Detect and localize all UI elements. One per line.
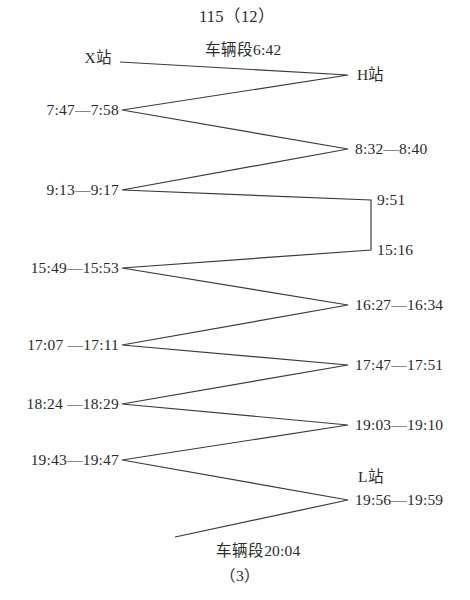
route-path	[120, 62, 371, 537]
train-schedule-diagram: 115（12） 车辆段6:42 X站 7:47—7:58 9:13—9:17 1…	[0, 0, 470, 600]
depot-start-label: 车辆段6:42	[205, 42, 282, 58]
stop-label-0747: 7:47—7:58	[47, 102, 119, 118]
stop-label-1627: 16:27—16:34	[355, 297, 443, 313]
stop-label-1824: 18:24 —18:29	[27, 396, 119, 412]
stop-label-0913: 9:13—9:17	[47, 182, 119, 198]
stop-label-1747: 17:47—17:51	[355, 357, 443, 373]
depot-end-label: 车辆段20:04	[216, 543, 301, 559]
stop-label-1956: 19:56—19:59	[355, 492, 443, 508]
station-label-h: H站	[357, 67, 385, 83]
diagram-title: 115（12）	[199, 9, 275, 26]
stop-label-1943: 19:43—19:47	[31, 452, 119, 468]
stop-label-1707: 17:07 —17:11	[27, 337, 119, 353]
stop-label-0951: 9:51	[377, 192, 405, 208]
stop-label-1903: 19:03—19:10	[355, 417, 443, 433]
stop-label-1549: 15:49—15:53	[31, 260, 119, 276]
stop-label-1516: 15:16	[377, 242, 413, 258]
stop-label-0832: 8:32—8:40	[355, 141, 427, 157]
footer-count-label: （3）	[220, 568, 260, 584]
station-label-l: L站	[358, 469, 384, 485]
station-label-x: X站	[84, 50, 112, 66]
